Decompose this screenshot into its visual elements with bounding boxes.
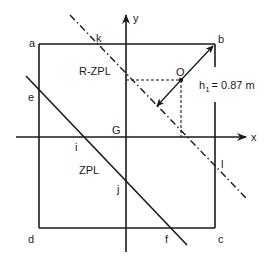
label-b: b [218, 33, 224, 45]
label-d: d [28, 233, 34, 245]
dimension-arrow-to-b [181, 46, 213, 80]
diagram-canvas: a b c d e f i j k l O G y x ZPL R-ZPL h1… [0, 0, 272, 269]
label-o: O [176, 66, 185, 78]
label-x-axis: x [251, 131, 257, 143]
label-j: j [116, 183, 119, 195]
dimension-value: = 0.87 m [212, 79, 255, 91]
label-y-axis: y [133, 12, 139, 24]
svg-text:h1= 0.87 m: h1= 0.87 m [199, 79, 255, 94]
point-o-marker [179, 78, 183, 82]
label-k: k [96, 32, 102, 44]
label-l: l [221, 158, 223, 170]
dimension-subscript: 1 [205, 85, 210, 94]
label-f: f [165, 233, 169, 245]
zpl-line [26, 76, 187, 245]
label-zpl: ZPL [79, 164, 99, 176]
label-i: i [75, 141, 77, 153]
dimension-label-h1: h1= 0.87 m [199, 79, 255, 94]
label-e: e [28, 91, 34, 103]
label-rzpl: R-ZPL [79, 65, 111, 77]
label-g: G [112, 124, 121, 136]
dimension-arrow-to-rzpl [157, 80, 181, 106]
label-a: a [29, 37, 36, 49]
label-c: c [218, 233, 224, 245]
